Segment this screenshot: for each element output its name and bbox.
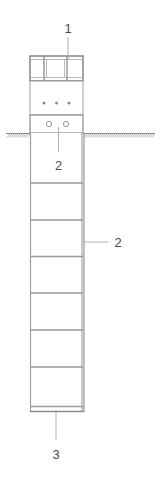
- top-cap-group: [30, 56, 83, 81]
- callout-2-shaft-right: 2: [114, 235, 121, 250]
- callout-3-base: 3: [52, 447, 59, 462]
- shaft-body-fill: [30, 133, 83, 412]
- callout-2-below-grade: 2: [55, 158, 62, 173]
- figure-canvas: 1 2 2 3: [0, 0, 161, 477]
- upper-body-group: [30, 81, 83, 115]
- ground-hatching-left: [7, 134, 30, 138]
- indicator-dot-1: [43, 102, 46, 105]
- ground-hatching-right: [84, 134, 155, 138]
- collar-outline: [30, 115, 83, 133]
- indicator-dot-3: [68, 102, 71, 105]
- upper-body-outline: [30, 81, 83, 115]
- collar-group: [30, 115, 83, 133]
- indicator-dot-2: [55, 102, 58, 105]
- shaft-group: [30, 133, 84, 412]
- callout-1-top-cap: 1: [64, 21, 71, 36]
- technical-drawing-figure: 1 2 2 3: [0, 0, 161, 477]
